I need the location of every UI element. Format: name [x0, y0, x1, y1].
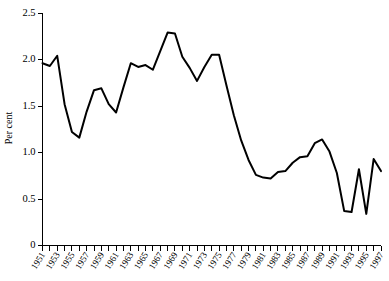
line-chart: Per cent 00.51.01.52.02.5 19511953195519…: [0, 0, 389, 281]
y-axis-title-group: Per cent: [3, 112, 14, 145]
x-axis-tick-label: 1991: [323, 250, 341, 271]
x-axis-tick-label: 1955: [58, 250, 76, 271]
x-axis-tick-label: 1985: [279, 250, 297, 271]
y-axis-tick-label: 0: [30, 239, 35, 250]
x-axis-tick-label: 1969: [161, 250, 179, 271]
y-axis-tick-label: 2.5: [22, 7, 35, 18]
x-axis-tick-label: 1981: [250, 250, 268, 271]
x-axis-tick-label: 1977: [220, 250, 238, 271]
y-axis-tick-labels: 00.51.01.52.02.5: [22, 7, 35, 251]
x-axis-tick-label: 1973: [191, 250, 209, 271]
x-axis-tick-label: 1983: [264, 250, 282, 271]
x-axis-tick-label: 1989: [309, 250, 327, 271]
x-axis-tick-label: 1957: [73, 250, 91, 271]
x-axis-tick-label: 1987: [294, 250, 312, 271]
x-axis-tick-label: 1997: [367, 250, 385, 271]
x-axis-tick-label: 1975: [206, 250, 224, 271]
x-axis-tick-label: 1961: [103, 250, 121, 271]
y-axis-tick-label: 2.0: [22, 53, 35, 64]
x-axis-tick-labels: 1951195319551957195919611963196519671969…: [29, 250, 386, 271]
y-axis-tick-label: 1.0: [22, 146, 35, 157]
x-axis-tick-label: 1959: [88, 250, 106, 271]
x-axis-tick-label: 1963: [117, 250, 135, 271]
x-axis-tick-label: 1995: [353, 250, 371, 271]
y-axis-tick-label: 1.5: [22, 100, 35, 111]
x-axis-tick-label: 1965: [132, 250, 150, 271]
x-axis-tick-label: 1971: [176, 250, 194, 271]
x-axis-tick-label: 1953: [44, 250, 62, 271]
x-axis-ticks: [43, 246, 382, 251]
y-axis-tick-label: 0.5: [22, 193, 35, 204]
x-axis-tick-label: 1979: [235, 250, 253, 271]
data-series-line: [43, 33, 382, 214]
x-axis-tick-label: 1951: [29, 250, 47, 271]
chart-container: Per cent 00.51.01.52.02.5 19511953195519…: [0, 0, 389, 281]
x-axis-tick-label: 1967: [147, 250, 165, 271]
y-axis-ticks: [38, 13, 43, 246]
x-axis-tick-label: 1993: [338, 250, 356, 271]
y-axis-title: Per cent: [3, 112, 14, 145]
